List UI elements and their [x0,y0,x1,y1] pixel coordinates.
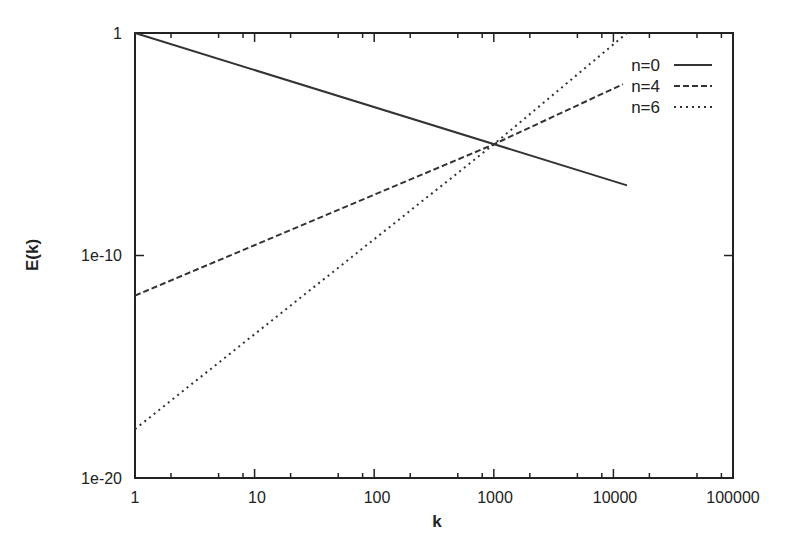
x-tick-label: 10000 [593,489,638,506]
x-tick-label: 100000 [706,489,759,506]
chart: 1 10 100 1000 10000 100000 1 1e-10 1e-20… [0,0,791,546]
series-line-n6 [135,33,627,429]
legend: n=0 n=4 n=6 [631,56,712,117]
y-tick-label: 1e-10 [81,247,122,264]
y-tick-label: 1e-20 [81,470,122,487]
legend-label-n0: n=0 [631,56,660,75]
legend-label-n4: n=4 [631,77,660,96]
x-tick-label: 100 [364,489,391,506]
series-group [135,33,627,429]
legend-label-n6: n=6 [631,98,660,117]
y-tick-label: 1 [113,25,122,42]
y-axis-title: E(k) [23,239,42,271]
series-line-n4 [135,84,623,295]
x-tick-label: 1000 [477,489,513,506]
x-tick-label: 1 [131,489,140,506]
series-line-n0 [135,33,627,185]
x-tick-label: 10 [248,489,266,506]
x-axis-title: k [432,512,442,531]
